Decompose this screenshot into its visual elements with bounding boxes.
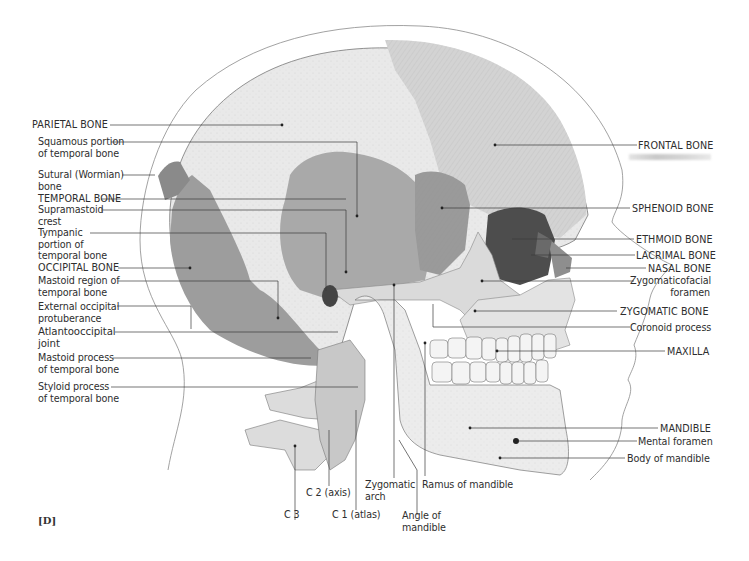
panel-label: [D] bbox=[38, 515, 56, 526]
label-tympanic-portion: Tympanic portion of temporal bone bbox=[38, 227, 107, 262]
label-occipital-bone: OCCIPITAL BONE bbox=[38, 262, 119, 274]
label-body-of-mandible: Body of mandible bbox=[627, 453, 710, 465]
label-temporal-bone: TEMPORAL BONE bbox=[38, 193, 121, 205]
label-c1-atlas: C 1 (atlas) bbox=[332, 509, 380, 521]
label-sphenoid-bone: SPHENOID BONE bbox=[632, 203, 714, 215]
label-ramus-of-mandible: Ramus of mandible bbox=[422, 479, 513, 491]
label-styloid-process: Styloid process of temporal bone bbox=[38, 381, 119, 404]
label-supramastoid-crest: Supramastoid crest bbox=[38, 204, 104, 227]
label-parietal-bone: PARIETAL BONE bbox=[32, 119, 108, 131]
label-zygomatic-bone: ZYGOMATIC BONE bbox=[620, 306, 709, 318]
label-maxilla: MAXILLA bbox=[667, 346, 709, 358]
print-smudge bbox=[629, 154, 711, 160]
label-zygomatic-arch: Zygomatic arch bbox=[365, 479, 415, 502]
label-c2-axis: C 2 (axis) bbox=[306, 487, 351, 499]
label-mandible: MANDIBLE bbox=[660, 423, 711, 435]
external-acoustic-meatus bbox=[322, 285, 338, 307]
label-mastoid-region: Mastoid region of temporal bone bbox=[38, 275, 120, 298]
label-mastoid-process: Mastoid process of temporal bone bbox=[38, 352, 119, 375]
label-c3: C 3 bbox=[284, 509, 300, 521]
label-coronoid-process: Coronoid process bbox=[630, 322, 711, 334]
label-atlantooccipital-joint: Atlantooccipital joint bbox=[38, 326, 116, 349]
label-ethmoid-bone: ETHMOID BONE bbox=[636, 234, 713, 246]
label-nasal-bone: NASAL BONE bbox=[648, 263, 711, 275]
label-angle-of-mandible: Angle of mandible bbox=[402, 510, 446, 533]
teeth bbox=[430, 334, 556, 384]
label-external-occipital-protuberance: External occipital protuberance bbox=[38, 301, 119, 324]
label-lacrimal-bone: LACRIMAL BONE bbox=[636, 250, 716, 262]
label-sutural-bone: Sutural (Wormian) bone bbox=[38, 169, 124, 192]
label-mental-foramen: Mental foramen bbox=[638, 436, 713, 448]
label-squamous-temporal: Squamous portion of temporal bone bbox=[38, 136, 124, 159]
label-frontal-bone: FRONTAL BONE bbox=[638, 140, 713, 152]
label-zygomaticofacial-foramen: Zygomaticofacial foramen bbox=[630, 275, 710, 298]
